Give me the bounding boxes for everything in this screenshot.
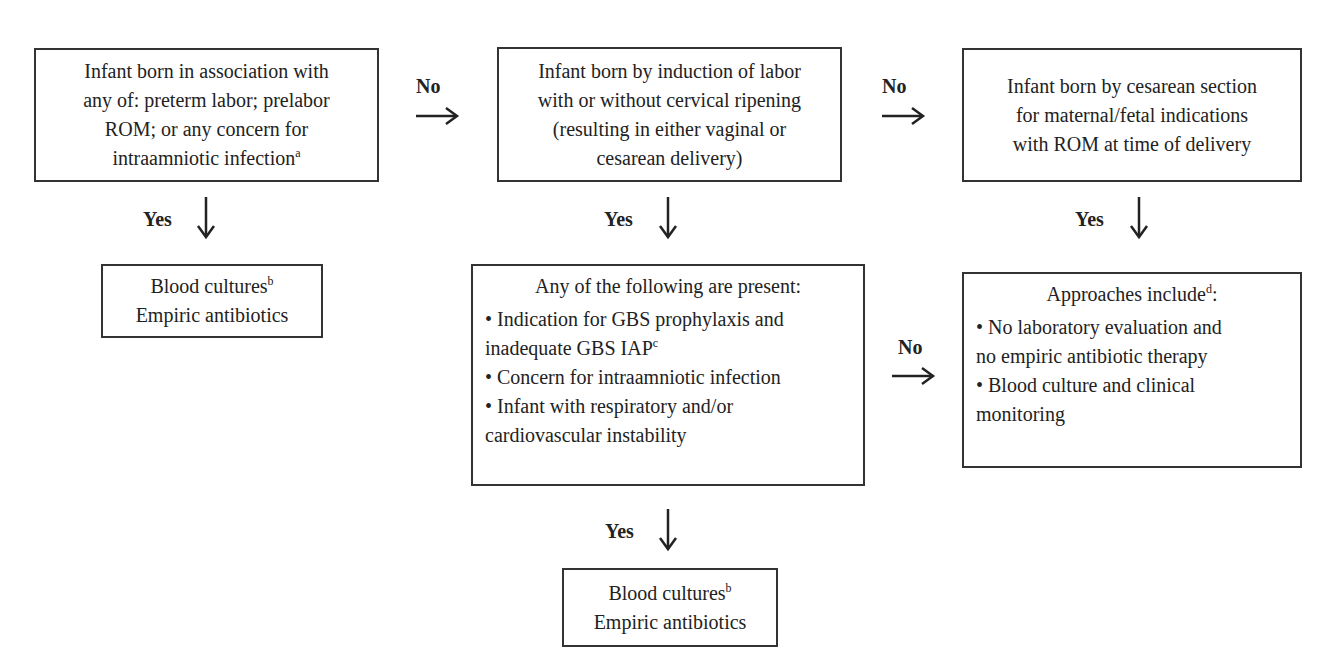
node-text: intraamniotic infection <box>112 147 295 169</box>
node-approaches-list: Approaches included: • No laboratory eva… <box>962 272 1302 468</box>
edge-label-no: No <box>898 336 922 358</box>
arrow-down-icon <box>196 196 216 240</box>
item-text: Concern for intraamniotic infection <box>497 366 781 388</box>
footnote-marker: b <box>268 274 274 288</box>
node-text-line: Blood culturesb <box>150 272 273 301</box>
node-text-line: (resulting in either vaginal or <box>553 115 786 144</box>
item-text: inadequate GBS IAP <box>485 337 653 359</box>
criteria-item: • Concern for intraamniotic infection <box>485 363 851 392</box>
approach-item: • No laboratory evaluation and no empiri… <box>976 313 1288 371</box>
bullet: • <box>485 308 492 330</box>
node-criteria-list: Any of the following are present: • Indi… <box>471 264 865 486</box>
item-text: Indication for GBS prophylaxis and <box>497 308 784 330</box>
criteria-item: • Infant with respiratory and/or cardiov… <box>485 392 851 450</box>
edge-label-no: No <box>882 75 906 97</box>
item-text: monitoring <box>976 403 1065 425</box>
node-text-line: Infant born by induction of labor <box>538 57 801 86</box>
node-induction-of-labor: Infant born by induction of labor with o… <box>497 47 842 182</box>
bullet: • <box>976 316 983 338</box>
bullet: • <box>976 374 983 396</box>
node-text-line: with ROM at time of delivery <box>1013 130 1251 159</box>
node-text-line: any of: preterm labor; prelabor <box>83 86 330 115</box>
edge-label-no: No <box>416 75 440 97</box>
arrow-down-icon <box>658 508 678 552</box>
criteria-item: • Indication for GBS prophylaxis and ina… <box>485 305 851 363</box>
arrow-down-icon <box>1129 196 1149 240</box>
heading-suffix: : <box>1212 283 1218 305</box>
node-text-line: Infant born in association with <box>84 57 328 86</box>
node-cesarean-section: Infant born by cesarean section for mate… <box>962 48 1302 182</box>
node-text: Blood cultures <box>608 582 725 604</box>
arrow-right-icon <box>890 366 936 386</box>
footnote-marker: a <box>295 146 300 160</box>
edge-label-yes: Yes <box>143 208 172 230</box>
item-text: cardiovascular instability <box>485 424 687 446</box>
bullet: • <box>485 366 492 388</box>
node-text-line: Infant born by cesarean section <box>1007 72 1257 101</box>
approach-item: • Blood culture and clinical monitoring <box>976 371 1288 429</box>
edge-label-yes: Yes <box>1075 208 1104 230</box>
footnote-marker: c <box>653 336 658 350</box>
node-text: Blood cultures <box>150 275 267 297</box>
node-heading: Approaches included: <box>976 280 1288 309</box>
bullet: • <box>485 395 492 417</box>
edge-label-yes: Yes <box>605 520 634 542</box>
item-text: no empiric antibiotic therapy <box>976 345 1208 367</box>
item-text: Infant with respiratory and/or <box>497 395 733 417</box>
node-text-line: cesarean delivery) <box>596 144 742 173</box>
node-text-line: ROM; or any concern for <box>105 115 308 144</box>
node-blood-cultures-antibiotics-2: Blood culturesb Empiric antibiotics <box>562 568 778 647</box>
node-text-line: Blood culturesb <box>608 579 731 608</box>
arrow-right-icon <box>880 106 926 126</box>
node-text-line: Empiric antibiotics <box>136 301 289 330</box>
item-text: Blood culture and clinical <box>988 374 1195 396</box>
arrow-right-icon <box>414 106 460 126</box>
footnote-marker: b <box>726 581 732 595</box>
item-text: No laboratory evaluation and <box>988 316 1222 338</box>
node-heading: Any of the following are present: <box>485 272 851 301</box>
node-text-line: with or without cervical ripening <box>538 86 801 115</box>
node-text-line: for maternal/fetal indications <box>1016 101 1248 130</box>
edge-label-yes: Yes <box>604 208 633 230</box>
node-text-line: Empiric antibiotics <box>594 608 747 637</box>
node-text-line: intraamniotic infectiona <box>112 144 300 173</box>
node-preterm-prelabor-rom: Infant born in association with any of: … <box>34 48 379 182</box>
arrow-down-icon <box>658 196 678 240</box>
node-blood-cultures-antibiotics: Blood culturesb Empiric antibiotics <box>101 264 323 338</box>
heading-text: Approaches include <box>1047 283 1206 305</box>
